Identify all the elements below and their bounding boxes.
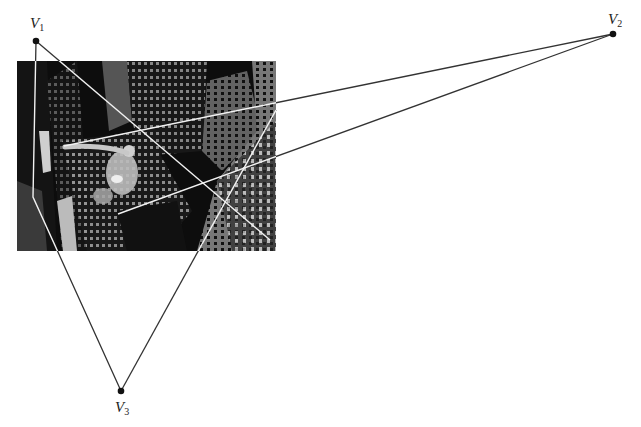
label-v3: V3 <box>115 400 129 417</box>
vanishing-point-v2 <box>610 31 617 38</box>
perspective-lines <box>0 0 641 427</box>
line-v1-v3 <box>33 41 121 391</box>
label-v1: V1 <box>30 16 44 33</box>
vanishing-point-v1 <box>33 38 40 45</box>
label-v2: V2 <box>608 12 622 29</box>
vanishing-point-v3 <box>118 388 125 395</box>
vanishing-point-diagram: V1 V2 V3 <box>0 0 641 427</box>
